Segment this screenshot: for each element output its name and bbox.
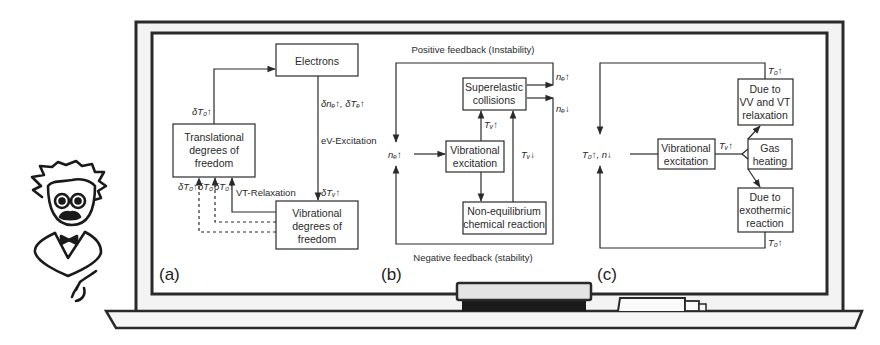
professor-avatar	[32, 161, 106, 301]
box-translational-line2: degrees of	[189, 144, 239, 156]
label-dT0-a: δT₀↑	[178, 181, 198, 192]
label-ne-up-left: nₑ↑	[388, 149, 402, 160]
box-superelastic-line2: collisions	[473, 94, 516, 106]
box-vibrational-line3: freedom	[298, 233, 337, 245]
box-exo-line1: Due to	[750, 191, 781, 203]
panel-b-letter: (b)	[381, 265, 402, 284]
box-vibrational-line1: Vibrational	[292, 207, 341, 219]
box-vib-c-line2: excitation	[664, 155, 709, 167]
box-translational-line1: Translational	[184, 131, 244, 143]
box-exo-line2: exothermic	[739, 204, 790, 216]
label-tv-up-b: Tᵥ↑	[484, 119, 498, 130]
panel-a-letter: (a)	[159, 265, 180, 284]
box-vvvt-line2: VV and VT	[740, 96, 791, 108]
label-dTv-up: δTᵥ↑	[321, 187, 340, 198]
label-tv-up-c: Tᵥ↑	[719, 140, 733, 151]
box-translational-line3: freedom	[195, 157, 234, 169]
pointing-hand-icon	[72, 271, 96, 301]
label-vt-relaxation: VT-Relaxation	[236, 187, 296, 198]
box-vib-b-line2: excitation	[453, 157, 498, 169]
label-dT0-b: δT₀	[198, 181, 213, 192]
positive-feedback-title: Positive feedback (Instability)	[411, 44, 534, 55]
label-dT0-up: δT₀↑	[192, 106, 212, 117]
box-vvvt-line1: Due to	[750, 83, 781, 95]
mustache-icon	[60, 212, 80, 219]
box-vib-c-line1: Vibrational	[661, 142, 710, 154]
box-vib-b-line1: Vibrational	[450, 144, 499, 156]
box-exo-line3: reaction	[746, 217, 784, 229]
negative-feedback-title: Negative feedback (stability)	[413, 252, 532, 263]
label-t0-up-bottom: T₀↑	[768, 237, 783, 248]
label-ev-excitation: eV-Excitation	[321, 135, 376, 146]
label-dT0-c: δT₀↑	[214, 181, 234, 192]
box-electrons-label: Electrons	[295, 55, 339, 67]
box-superelastic-line1: Superelastic	[465, 81, 523, 93]
eraser[interactable]	[457, 283, 591, 300]
box-vvvt-line3: relaxation	[742, 109, 788, 121]
label-tv-down-b: Tᵥ↓	[521, 149, 535, 160]
label-ne-up-right: nₑ↑	[556, 71, 570, 82]
label-t0-n-center: T₀↑, n↓	[582, 149, 612, 160]
bowtie-icon	[61, 236, 77, 244]
box-gas-line2: heating	[753, 155, 788, 167]
chalkboard-scene: Electrons Translational degrees of freed…	[0, 0, 880, 345]
box-vibrational-line2: degrees of	[292, 220, 342, 232]
chalk-ledge	[106, 311, 862, 328]
box-noneq-line2: chemical reaction	[463, 218, 545, 230]
label-dne-dTe: δnₑ↑, δTₑ↑	[321, 98, 365, 109]
label-t0-up-top: T₀↑	[768, 65, 783, 76]
chalkboard	[106, 22, 862, 328]
box-noneq-line1: Non-equilibrium	[467, 205, 541, 217]
box-gas-line1: Gas	[760, 142, 779, 154]
label-ne-down-right: nₑ↓	[556, 103, 570, 114]
panel-c-letter: (c)	[597, 265, 617, 284]
